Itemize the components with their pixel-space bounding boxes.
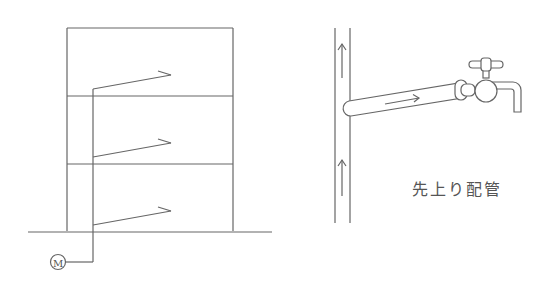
diagram-canvas: M bbox=[0, 0, 551, 282]
faucet-icon bbox=[455, 58, 521, 112]
building-outline bbox=[67, 28, 233, 231]
branch-pipe-floor-1 bbox=[93, 207, 171, 225]
branch-pipe-floor-3 bbox=[93, 71, 171, 89]
diagram-caption: 先上り配管 bbox=[412, 176, 502, 200]
meter-label: M bbox=[53, 258, 63, 269]
sloped-branch-pipe bbox=[343, 83, 462, 116]
flow-arrow-up-bottom bbox=[338, 160, 346, 196]
flow-arrow-up-top bbox=[338, 44, 346, 78]
riser-pipe bbox=[65, 89, 93, 262]
branch-pipe-floor-2 bbox=[93, 139, 171, 157]
